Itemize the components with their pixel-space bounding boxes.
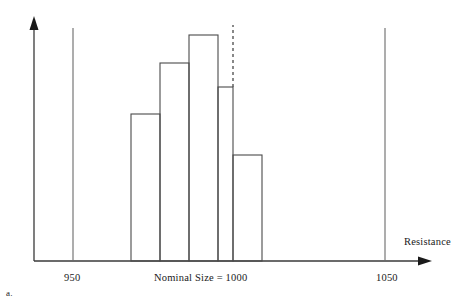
panel-label: a. [6,288,13,298]
histogram-bar [189,35,218,261]
tick-label-lower-spec-limit: 950 [64,272,80,283]
nominal-size-annotation: Nominal Size = 1000 [154,272,247,283]
histogram-bars [131,35,262,261]
arrow-up-icon [30,16,39,30]
histogram-bar [160,63,189,261]
histogram-bar [233,155,262,261]
arrow-right-icon [418,257,432,266]
plot-area [0,0,471,305]
histogram-bar [218,87,233,261]
tick-label-upper-spec-limit: 1050 [376,272,398,283]
histogram-bar [131,114,160,261]
histogram-figure: Resistance 950 Nominal Size = 1000 1050 … [0,0,471,305]
x-axis-title: Resistance [404,236,451,247]
